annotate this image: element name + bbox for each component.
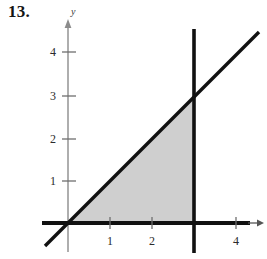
y-axis-ticks [62,52,76,181]
x-tick-label-2: 2 [149,234,155,248]
y-tick-label-2: 2 [50,132,56,146]
y-axis-arrow-icon [65,19,72,28]
x-tick-label-1: 1 [107,234,113,248]
y-tick-label-3: 3 [50,89,56,103]
y-tick-label-1: 1 [50,174,56,188]
coordinate-plot: y 4 3 2 1 1 2 4 [0,0,267,259]
x-axis-arrow-icon [257,220,264,227]
figure-container: 13. y 4 3 [0,0,267,259]
y-axis-label: y [70,6,76,17]
y-tick-label-4: 4 [50,45,56,59]
x-tick-label-4: 4 [233,234,239,248]
